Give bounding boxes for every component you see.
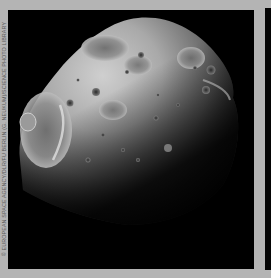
phobos-illustration [8,10,254,269]
photo-credit: © EUROPEAN SPACE AGENCY/DLR/FU BERLIN (G… [0,8,8,270]
moon-photo [8,10,254,269]
photo-credit-text: © EUROPEAN SPACE AGENCY/DLR/FU BERLIN (G… [1,22,7,256]
right-edge-strip [265,8,271,270]
